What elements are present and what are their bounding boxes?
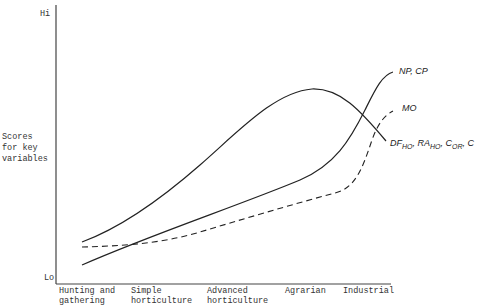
- y-title-line: Scores: [2, 132, 48, 143]
- y-tick-lo: Lo: [44, 273, 54, 283]
- x-tick-line: Advanced: [207, 286, 268, 296]
- x-tick-line: horticulture: [207, 296, 268, 306]
- label-c-sub: OR: [452, 143, 463, 150]
- x-tick-advanced: Advanced horticulture: [207, 286, 268, 306]
- label-df-ra-c: DFHO, RAHO, COR, C: [390, 138, 474, 150]
- label-df: DF: [390, 138, 402, 148]
- y-tick-hi: Hi: [40, 9, 50, 19]
- label-ra: RA: [418, 138, 431, 148]
- label-df-sub: HO: [402, 143, 413, 150]
- label-ra-sub: HO: [430, 143, 441, 150]
- x-tick-agrarian: Agrarian: [285, 286, 326, 296]
- line-df-ra-c: [82, 89, 386, 242]
- y-title-line: variables: [2, 154, 48, 165]
- label-np-cp: NP, CP: [399, 66, 428, 76]
- x-tick-hunting: Hunting and gathering: [59, 286, 115, 306]
- y-axis-title: Scores for key variables: [2, 132, 48, 165]
- label-c2: C: [468, 138, 475, 148]
- label-mo: MO: [402, 103, 417, 113]
- x-tick-simple: Simple horticulture: [131, 286, 192, 306]
- x-tick-industrial: Industrial: [343, 286, 394, 296]
- chart-plot-area: [0, 0, 491, 308]
- y-title-line: for key: [2, 143, 48, 154]
- x-tick-line: Simple: [131, 286, 192, 296]
- x-tick-line: Hunting and: [59, 286, 115, 296]
- x-tick-line: horticulture: [131, 296, 192, 306]
- x-tick-line: gathering: [59, 296, 115, 306]
